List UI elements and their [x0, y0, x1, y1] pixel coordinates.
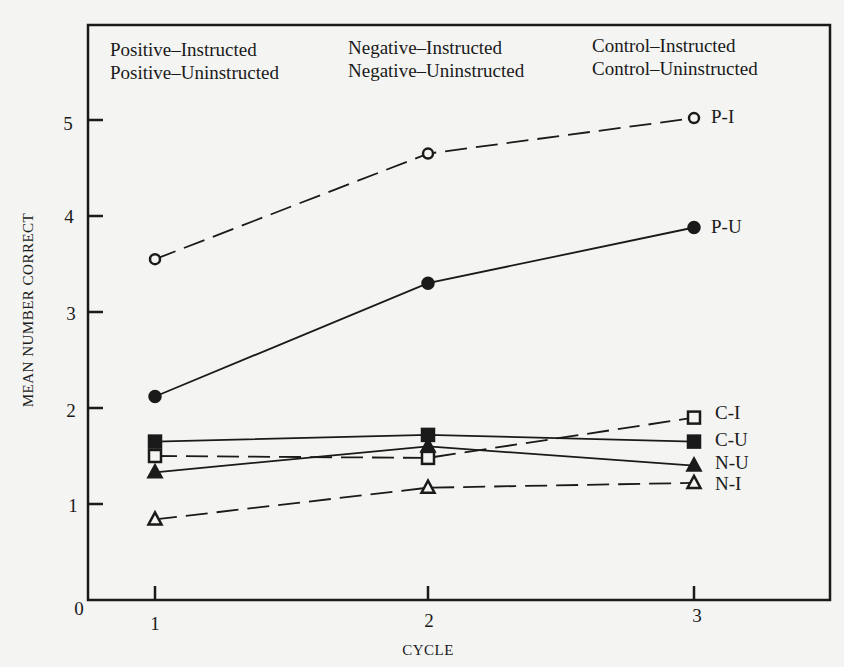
legend-control-uninstructed: Control–Uninstructed: [592, 57, 758, 80]
y-tick-label-1: 1: [68, 495, 78, 517]
series-label-c-i: C-I: [715, 402, 740, 424]
legend-column-negative: Negative–Instructed Negative–Uninstructe…: [348, 36, 524, 82]
y-axis-title: MEAN NUMBER CORRECT: [20, 213, 37, 408]
legend-column-positive: Positive–Instructed Positive–Uninstructe…: [110, 38, 279, 84]
series-markers-n-i: [149, 476, 701, 525]
series-line-p-i: [155, 118, 694, 259]
x-tick-label-3: 3: [692, 605, 702, 627]
y-tick-label-4: 4: [64, 206, 74, 228]
x-tick-label-2: 2: [424, 610, 434, 632]
y-tick-label-5: 5: [63, 113, 73, 135]
series-label-c-u: C-U: [715, 429, 748, 451]
legend-control-instructed: Control–Instructed: [592, 34, 758, 57]
series-markers-p-i: [150, 113, 699, 264]
y-tick-label-3: 3: [66, 303, 76, 325]
x-axis-title: CYCLE: [402, 642, 454, 659]
series-label-p-i: P-I: [711, 106, 734, 128]
x-tick-label-1: 1: [150, 613, 160, 635]
y-tick-label-0: 0: [74, 598, 84, 620]
series-line-p-u: [155, 228, 694, 397]
legend-negative-uninstructed: Negative–Uninstructed: [348, 59, 524, 82]
series-label-n-u: N-U: [715, 452, 749, 474]
legend-positive-instructed: Positive–Instructed: [110, 38, 279, 61]
legend-positive-uninstructed: Positive–Uninstructed: [110, 61, 279, 84]
series-label-p-u: P-U: [711, 216, 742, 238]
y-tick-label-2: 2: [66, 400, 76, 422]
series-label-n-i: N-I: [715, 473, 741, 495]
y-axis-ticks: [88, 120, 103, 504]
x-axis-ticks: [155, 586, 694, 600]
line-chart: [0, 0, 844, 667]
series-markers-p-u: [150, 222, 700, 402]
legend-negative-instructed: Negative–Instructed: [348, 36, 524, 59]
legend-column-control: Control–Instructed Control–Uninstructed: [592, 34, 758, 80]
